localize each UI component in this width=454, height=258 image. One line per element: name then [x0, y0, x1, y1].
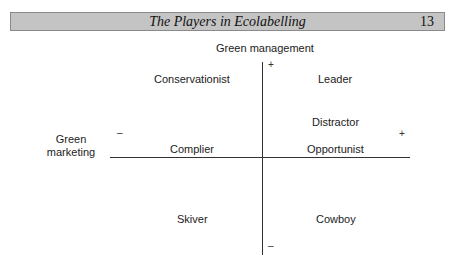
horizontal-axis — [110, 157, 410, 158]
y-axis-plus: + — [268, 59, 274, 70]
label-skiver: Skiver — [177, 213, 208, 225]
x-axis-label-line1: Green — [46, 133, 96, 145]
header-title: The Players in Ecolabelling — [11, 14, 444, 30]
vertical-axis — [262, 62, 263, 255]
label-opportunist: Opportunist — [307, 143, 364, 155]
label-cowboy: Cowboy — [316, 213, 356, 225]
label-conservationist: Conservationist — [154, 73, 230, 85]
running-header: The Players in Ecolabelling 13 — [10, 12, 445, 31]
label-complier: Complier — [170, 143, 214, 155]
page-number: 13 — [420, 14, 434, 30]
x-axis-plus: + — [399, 128, 405, 139]
y-axis-label: Green management — [216, 42, 314, 54]
x-axis-minus: – — [117, 127, 123, 138]
label-distractor: Distractor — [312, 116, 359, 128]
label-leader: Leader — [318, 73, 352, 85]
y-axis-minus: – — [268, 240, 274, 251]
x-axis-label-line2: marketing — [46, 146, 96, 158]
